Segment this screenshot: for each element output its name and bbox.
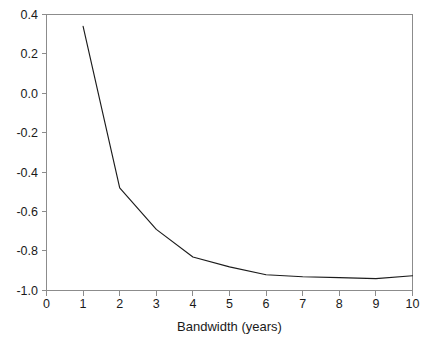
y-tick-label: -0.6: [16, 205, 38, 219]
x-tick-label: 2: [116, 297, 123, 311]
y-tick-label: -1.0: [16, 284, 38, 298]
chart-figure: 0.4 0.2 0.0 -0.2 -0.4 -0.6 -0.8 -1.0 0: [0, 0, 428, 342]
x-tick-label: 6: [263, 297, 270, 311]
y-tick-label: 0.2: [21, 47, 38, 61]
x-tick-label: 9: [372, 297, 379, 311]
line-chart: 0.4 0.2 0.0 -0.2 -0.4 -0.6 -0.8 -1.0 0: [0, 0, 428, 342]
y-tick-label: 0.0: [21, 87, 38, 101]
x-tick-label: 3: [153, 297, 160, 311]
y-tick-label: -0.2: [16, 126, 38, 140]
y-tick-label: -0.8: [16, 244, 38, 258]
y-tick-label: -0.4: [16, 166, 38, 180]
x-tick-label: 7: [299, 297, 306, 311]
y-tick-label: 0.4: [21, 8, 38, 22]
x-tick-label: 8: [336, 297, 343, 311]
x-tick-label: 1: [80, 297, 87, 311]
x-axis-title: Bandwidth (years): [177, 319, 282, 334]
x-tick-label: 0: [43, 297, 50, 311]
x-tick-label: 10: [406, 297, 420, 311]
x-tick-label: 5: [226, 297, 233, 311]
x-tick-label: 4: [189, 297, 196, 311]
